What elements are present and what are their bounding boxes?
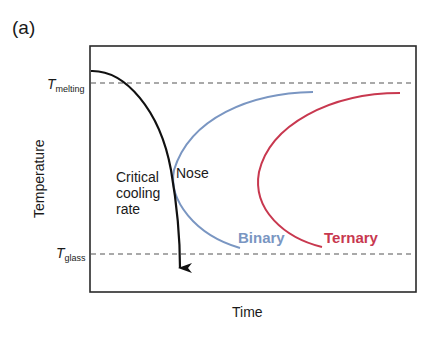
nose-label: Nose bbox=[176, 165, 209, 181]
melting-temperature-label: Tmelting bbox=[47, 76, 85, 94]
ternary-curve bbox=[258, 93, 400, 247]
ttt-diagram: (a) Tmelting Tglass Temperature Time Cri… bbox=[0, 0, 441, 337]
x-axis-label: Time bbox=[232, 304, 263, 320]
y-axis-label: Temperature bbox=[31, 139, 47, 218]
glass-temperature-label: Tglass bbox=[56, 245, 86, 263]
panel-label: (a) bbox=[12, 17, 35, 38]
binary-label: Binary bbox=[238, 229, 285, 246]
ternary-label: Ternary bbox=[324, 229, 379, 246]
critical-cooling-rate-label: Critical cooling rate bbox=[116, 169, 164, 217]
